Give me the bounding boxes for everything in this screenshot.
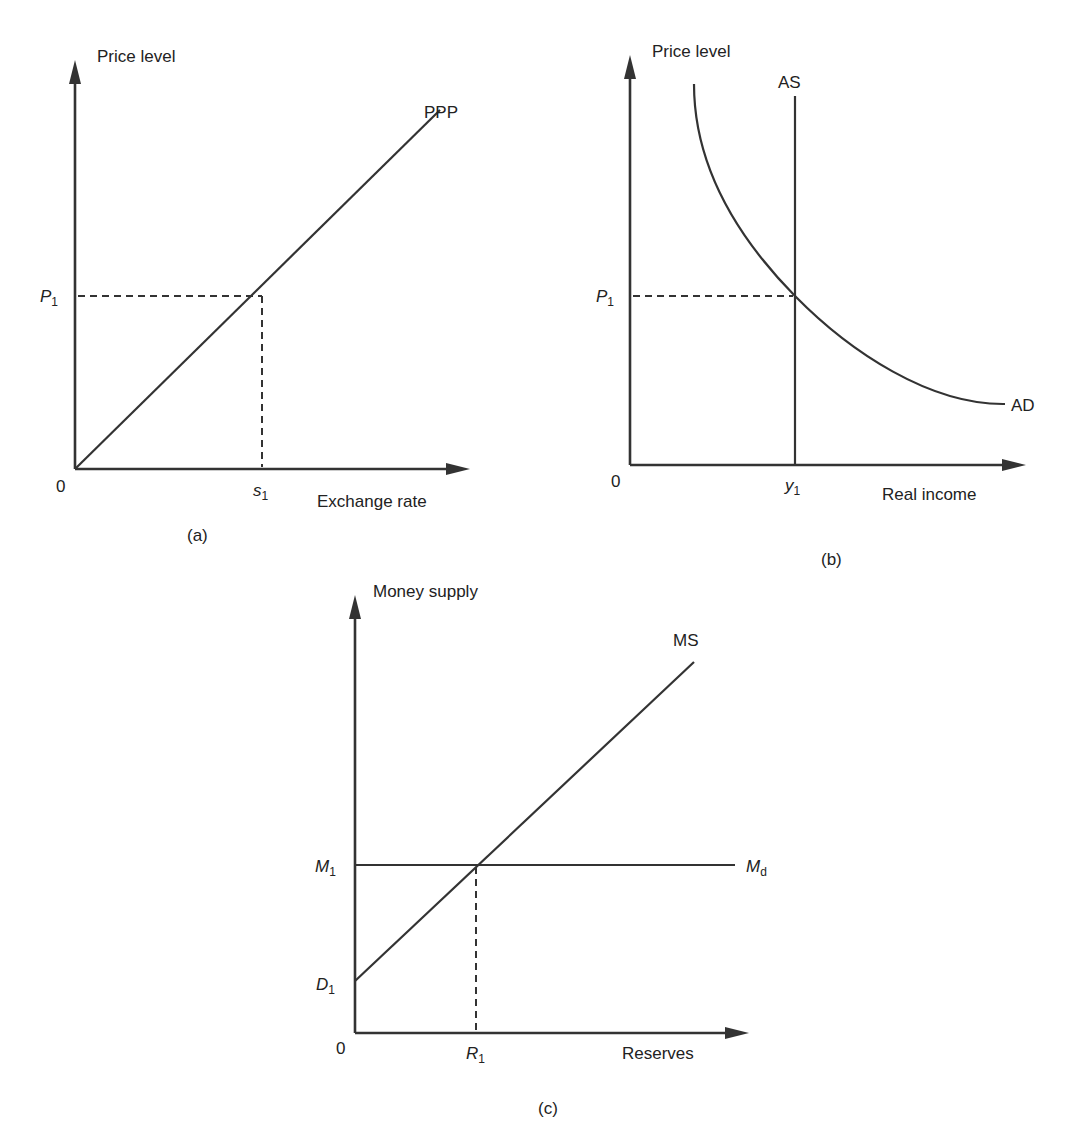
panel-caption: (c) — [538, 1099, 558, 1118]
x-axis-label: Reserves — [622, 1044, 694, 1063]
y-axis-label: Price level — [652, 42, 730, 61]
y-axis-arrow-icon — [69, 60, 81, 84]
origin-label: 0 — [56, 477, 65, 496]
x-axis-arrow-icon — [1002, 459, 1026, 471]
origin-label: 0 — [336, 1039, 345, 1058]
p1-label: P1 — [40, 287, 58, 309]
panel-a: Price level PPP P1 0 s1 Exchange rate (a… — [40, 47, 470, 545]
ppp-line — [75, 110, 440, 469]
y-axis-label: Money supply — [373, 582, 478, 601]
s1-label: s1 — [253, 481, 269, 503]
md-label: Md — [746, 857, 767, 879]
origin-label: 0 — [611, 472, 620, 491]
panel-caption: (b) — [821, 550, 842, 569]
panel-caption: (a) — [187, 526, 208, 545]
as-label: AS — [778, 73, 801, 92]
x-axis-label: Real income — [882, 485, 977, 504]
p1-label: P1 — [596, 287, 614, 309]
ad-label: AD — [1011, 396, 1035, 415]
x-axis-label: Exchange rate — [317, 492, 427, 511]
y1-label: y1 — [784, 476, 801, 498]
y-axis-arrow-icon — [349, 595, 361, 619]
d1-label: D1 — [316, 975, 335, 997]
y-axis-arrow-icon — [624, 55, 636, 79]
y-axis-label: Price level — [97, 47, 175, 66]
ppp-label: PPP — [424, 103, 458, 122]
r1-label: R1 — [466, 1044, 485, 1066]
panel-b: Price level AS AD P1 0 y1 Real income (b… — [596, 42, 1035, 569]
x-axis-arrow-icon — [446, 463, 470, 475]
ms-line — [355, 662, 694, 981]
ms-label: MS — [673, 631, 699, 650]
economics-diagram-figure: Price level PPP P1 0 s1 Exchange rate (a… — [0, 0, 1076, 1147]
m1-label: M1 — [315, 857, 336, 879]
ad-curve — [694, 84, 1005, 404]
x-axis-arrow-icon — [725, 1027, 749, 1039]
panel-c: Money supply MS Md M1 D1 0 R1 Reserves (… — [315, 582, 767, 1118]
